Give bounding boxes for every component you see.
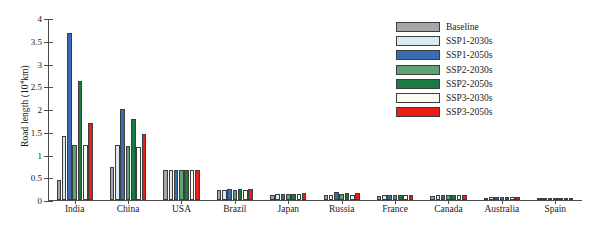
y-tick-mark-inner bbox=[49, 19, 53, 20]
bar bbox=[329, 195, 334, 200]
bar bbox=[217, 190, 222, 200]
bar bbox=[174, 170, 179, 200]
bar bbox=[233, 190, 238, 200]
bar bbox=[163, 170, 168, 200]
y-axis-title: Road length (104km) bbox=[18, 21, 30, 191]
y-tick-mark bbox=[44, 178, 48, 179]
bar bbox=[564, 198, 569, 200]
bar bbox=[558, 198, 563, 200]
bar bbox=[387, 195, 392, 200]
bar bbox=[88, 123, 93, 200]
bar bbox=[120, 109, 125, 200]
bar-group: Brazil bbox=[217, 18, 253, 200]
y-tick-mark-inner bbox=[49, 110, 53, 111]
bar bbox=[436, 195, 441, 200]
y-tick-mark bbox=[44, 133, 48, 134]
x-tick-label: China bbox=[110, 204, 146, 214]
y-tick-label: 3 bbox=[38, 60, 43, 70]
bar-group: Russia bbox=[324, 18, 360, 200]
bar bbox=[67, 33, 72, 200]
legend-item[interactable]: SSP2-2030s bbox=[396, 63, 581, 77]
y-tick-label: 4 bbox=[38, 14, 43, 24]
y-tick-label: 3.5 bbox=[31, 37, 42, 47]
x-tick-label: Spain bbox=[537, 204, 573, 214]
bar bbox=[324, 195, 329, 200]
x-tick-label: Japan bbox=[270, 204, 306, 214]
bar bbox=[398, 195, 403, 200]
bar bbox=[238, 189, 243, 200]
bar bbox=[281, 194, 286, 200]
bar-chart-figure: Road length (104km) 00.511.522.533.54 In… bbox=[0, 0, 590, 237]
legend-item[interactable]: SSP3-2050s bbox=[396, 105, 581, 119]
legend-item[interactable]: Baseline bbox=[396, 20, 581, 34]
y-tick-mark bbox=[44, 201, 48, 202]
bar bbox=[355, 193, 360, 200]
bar bbox=[222, 190, 227, 200]
bar bbox=[350, 195, 355, 200]
y-tick-label: 2.5 bbox=[31, 82, 42, 92]
legend-item[interactable]: SSP2-2050s bbox=[396, 77, 581, 91]
legend-label: SSP3-2050s bbox=[446, 107, 492, 117]
bar bbox=[409, 195, 414, 200]
bar bbox=[136, 147, 141, 200]
legend-item[interactable]: SSP1-2030s bbox=[396, 34, 581, 48]
y-tick-mark-inner bbox=[49, 156, 53, 157]
x-tick-label: Australia bbox=[484, 204, 520, 214]
y-tick-label: 1.5 bbox=[31, 128, 42, 138]
bar bbox=[131, 119, 136, 200]
x-tick-label: USA bbox=[163, 204, 199, 214]
x-tick-label: India bbox=[57, 204, 93, 214]
bar bbox=[243, 190, 248, 200]
legend-label: SSP2-2030s bbox=[446, 65, 492, 75]
y-tick-label: 0.5 bbox=[31, 173, 42, 183]
legend-label: Baseline bbox=[446, 22, 479, 32]
bar bbox=[489, 197, 494, 200]
y-tick-mark bbox=[44, 42, 48, 43]
bar bbox=[430, 196, 435, 200]
bar bbox=[115, 145, 120, 201]
bar bbox=[126, 146, 131, 200]
bar bbox=[548, 198, 553, 200]
bar bbox=[110, 167, 115, 200]
bar bbox=[72, 145, 77, 201]
bar bbox=[190, 170, 195, 200]
bar bbox=[462, 195, 467, 200]
bar bbox=[542, 198, 547, 200]
y-tick-label: 2 bbox=[38, 105, 43, 115]
bar bbox=[248, 189, 253, 200]
y-axis-title-exponent: 4 bbox=[18, 81, 25, 85]
bar bbox=[510, 197, 515, 200]
y-tick-mark bbox=[44, 65, 48, 66]
legend-swatch bbox=[396, 93, 440, 103]
y-tick-mark bbox=[44, 87, 48, 88]
bar bbox=[62, 136, 67, 200]
y-tick-mark-inner bbox=[49, 42, 53, 43]
legend-item[interactable]: SSP1-2050s bbox=[396, 48, 581, 62]
bar bbox=[334, 192, 339, 200]
bar bbox=[345, 193, 350, 200]
bar bbox=[441, 195, 446, 200]
y-axis-title-prefix: Road length (10 bbox=[20, 84, 30, 147]
bar bbox=[494, 197, 499, 200]
bar bbox=[484, 198, 489, 200]
legend-label: SSP1-2030s bbox=[446, 36, 492, 46]
bar bbox=[291, 194, 296, 200]
bar bbox=[515, 197, 520, 200]
y-tick-mark-inner bbox=[49, 178, 53, 179]
y-tick-mark-inner bbox=[49, 133, 53, 134]
x-tick-label: Canada bbox=[430, 204, 466, 214]
bar bbox=[78, 81, 83, 200]
y-tick-mark-inner bbox=[49, 65, 53, 66]
y-tick-label: 0 bbox=[38, 196, 43, 206]
x-tick-label: Russia bbox=[324, 204, 360, 214]
bar bbox=[457, 195, 462, 200]
legend-label: SSP3-2030s bbox=[446, 93, 492, 103]
bar bbox=[184, 170, 189, 200]
legend-item[interactable]: SSP3-2030s bbox=[396, 91, 581, 105]
legend-swatch bbox=[396, 36, 440, 46]
bar bbox=[302, 193, 307, 200]
y-tick-label: 1 bbox=[38, 151, 43, 161]
y-tick-mark-inner bbox=[49, 87, 53, 88]
x-tick-label: Brazil bbox=[217, 204, 253, 214]
bar bbox=[403, 195, 408, 200]
